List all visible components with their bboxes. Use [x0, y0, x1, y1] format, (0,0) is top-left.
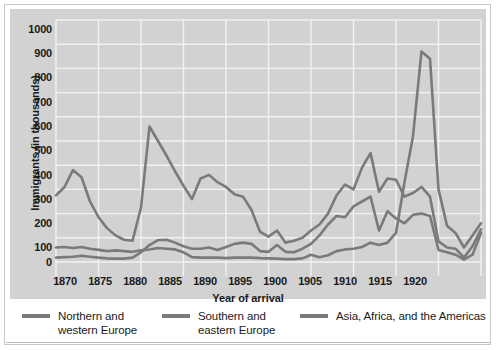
chart-panel: Immigrants (in thousands) Year of arriva…: [10, 9, 486, 299]
figure: Immigrants (in thousands) Year of arriva…: [0, 0, 496, 350]
legend-separator: [6, 342, 490, 343]
legend-label: Northern and western Europe: [58, 309, 137, 337]
legend-swatch-asia-africa-americas: [300, 314, 328, 318]
chart-legend: Northern and western Europe Southern and…: [10, 305, 486, 343]
legend-item-asia-africa-americas: Asia, Africa, and the Americas: [300, 309, 486, 323]
legend-swatch-southern-eastern-europe: [162, 314, 190, 318]
legend-label: Asia, Africa, and the Americas: [336, 309, 486, 323]
legend-item-southern-eastern-europe: Southern and eastern Europe: [162, 309, 275, 337]
legend-item-northern-western-europe: Northern and western Europe: [22, 309, 137, 337]
plot-area: [10, 9, 486, 299]
legend-label: Southern and eastern Europe: [198, 309, 275, 337]
legend-swatch-northern-western-europe: [22, 314, 50, 318]
